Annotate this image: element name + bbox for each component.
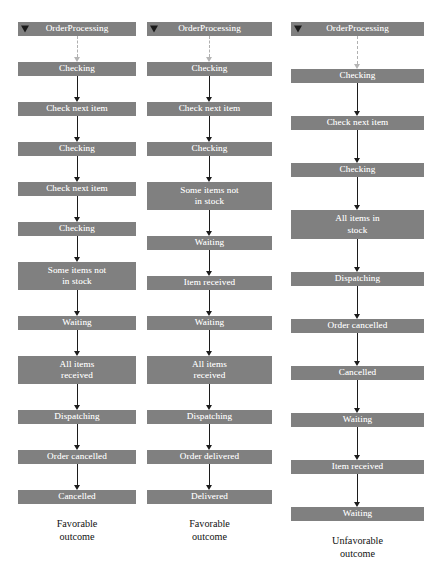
state-box: Order cancelled [291, 319, 424, 333]
arrow-shaft [77, 330, 78, 351]
outcome-caption: Unfavorable outcome [291, 535, 424, 560]
transition-arrow [205, 464, 214, 490]
state-label: Checking [339, 70, 375, 81]
arrow-shaft [77, 76, 78, 97]
transition-arrow [73, 236, 82, 262]
arrow-shaft [77, 384, 78, 405]
start-marker-icon [150, 26, 158, 33]
state-label: Checking [59, 143, 95, 154]
start-marker-icon [21, 26, 29, 33]
state-box: Check next item [18, 182, 136, 196]
state-label: Dispatching [54, 411, 100, 422]
state-label: Order cancelled [328, 320, 388, 331]
state-label: Checking [59, 223, 95, 234]
state-label: OrderProcessing [178, 23, 241, 34]
state-label: Checking [191, 143, 227, 154]
transition-arrow [73, 464, 82, 490]
arrow-shaft [77, 196, 78, 217]
state-box: Some items not in stock [147, 182, 272, 210]
transition-arrow [353, 177, 362, 210]
state-box: Check next item [147, 102, 272, 116]
transition-arrow [205, 250, 214, 276]
arrow-shaft [77, 116, 78, 137]
state-label: Check next item [327, 117, 389, 128]
state-box: All items in stock [291, 210, 424, 239]
state-label: Waiting [195, 237, 225, 248]
arrow-shaft [77, 156, 78, 177]
state-box: Waiting [18, 316, 136, 330]
state-label: Check next item [179, 103, 241, 114]
state-label: All items received [60, 359, 95, 381]
state-trace-diagram: OrderProcessingCheckingCheck next itemCh… [0, 0, 444, 562]
state-label: All items received [192, 359, 227, 381]
arrow-shaft [209, 76, 210, 97]
arrow-shaft [357, 427, 358, 455]
initial-transition-arrow [205, 36, 214, 62]
start-marker-icon [294, 26, 302, 33]
state-box: Dispatching [147, 410, 272, 424]
state-label: Waiting [343, 508, 373, 519]
state-label: Check next item [46, 103, 108, 114]
arrow-shaft [357, 177, 358, 205]
transition-arrow [353, 239, 362, 272]
arrow-shaft [357, 333, 358, 361]
state-box: Cancelled [291, 366, 424, 380]
state-label: Waiting [195, 317, 225, 328]
transition-arrow [205, 424, 214, 450]
arrow-shaft [357, 286, 358, 314]
state-box: Item received [291, 460, 424, 474]
transition-arrow [73, 156, 82, 182]
state-label: Some items not in stock [48, 265, 107, 287]
state-label: Delivered [191, 491, 228, 502]
initial-transition-arrow [353, 36, 362, 69]
transition-arrow [353, 427, 362, 460]
transition-arrow [73, 116, 82, 142]
state-label: Order delivered [180, 451, 239, 462]
state-box: Some items not in stock [18, 262, 136, 290]
state-box: Waiting [147, 316, 272, 330]
state-label: Checking [339, 164, 375, 175]
state-label: Cancelled [339, 367, 377, 378]
state-box: Checking [18, 142, 136, 156]
state-label: Waiting [343, 414, 373, 425]
arrow-shaft [209, 116, 210, 137]
transition-arrow [205, 76, 214, 102]
transition-arrow [205, 290, 214, 316]
transition-arrow [353, 474, 362, 507]
state-box: Order delivered [147, 450, 272, 464]
state-box: Checking [18, 222, 136, 236]
transition-arrow [205, 156, 214, 182]
arrow-shaft [77, 290, 78, 311]
state-box: Waiting [291, 507, 424, 521]
arrow-shaft [209, 36, 210, 57]
transition-arrow [73, 330, 82, 356]
state-label: All items in stock [335, 213, 380, 235]
state-label: Dispatching [335, 273, 381, 284]
initial-transition-arrow [73, 36, 82, 62]
state-box: Dispatching [291, 272, 424, 286]
arrow-shaft [77, 236, 78, 257]
arrow-shaft [357, 36, 358, 64]
state-box: Item received [147, 276, 272, 290]
state-box: Dispatching [18, 410, 136, 424]
arrow-shaft [77, 36, 78, 57]
state-box: All items received [147, 356, 272, 384]
transition-arrow [73, 384, 82, 410]
initial-state-box: OrderProcessing [147, 22, 272, 36]
transition-arrow [205, 116, 214, 142]
state-box: All items received [18, 356, 136, 384]
state-box: Check next item [18, 102, 136, 116]
arrow-shaft [77, 424, 78, 445]
state-box: Cancelled [18, 490, 136, 504]
arrow-shaft [77, 464, 78, 485]
state-label: Item received [184, 277, 236, 288]
arrow-shaft [209, 250, 210, 271]
transition-arrow [73, 76, 82, 102]
state-label: OrderProcessing [46, 23, 109, 34]
state-label: Order cancelled [47, 451, 107, 462]
transition-arrow [73, 196, 82, 222]
arrow-shaft [209, 330, 210, 351]
arrow-shaft [209, 384, 210, 405]
state-label: Checking [59, 63, 95, 74]
arrow-shaft [357, 474, 358, 502]
